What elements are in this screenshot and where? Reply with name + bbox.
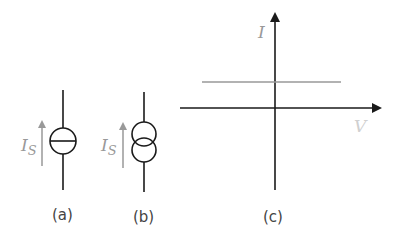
panel-c: I V (c): [180, 14, 380, 226]
diagram-canvas: IS (a) IS (b) I V (c): [0, 0, 402, 247]
source-circle-lower-icon: [132, 138, 156, 162]
x-axis-label: V: [354, 116, 368, 136]
current-label: IS: [100, 135, 117, 158]
caption-a: (a): [52, 206, 73, 224]
panel-a: IS (a): [20, 90, 76, 224]
y-axis-label: I: [257, 22, 265, 42]
current-label: IS: [20, 135, 37, 158]
caption-b: (b): [133, 208, 154, 226]
caption-c: (c): [263, 208, 283, 226]
panel-b: IS (b): [100, 92, 156, 226]
